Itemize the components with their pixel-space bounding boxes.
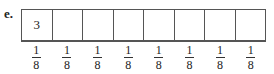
strip-cell[interactable] [114, 10, 145, 40]
fraction: 18 [174, 44, 205, 71]
fraction: 18 [113, 44, 144, 71]
denominator: 8 [186, 59, 192, 71]
problem-label: e. [4, 6, 13, 22]
numerator: 1 [217, 44, 223, 56]
fraction: 18 [82, 44, 113, 71]
numerator: 1 [33, 44, 39, 56]
denominator: 8 [156, 59, 162, 71]
strip-cell[interactable] [144, 10, 175, 40]
numerator: 1 [156, 44, 162, 56]
strip-cell[interactable] [175, 10, 206, 40]
denominator: 8 [125, 59, 131, 71]
fraction-labels: 18 18 18 18 18 18 18 18 [21, 44, 266, 71]
numerator: 1 [186, 44, 192, 56]
numerator: 1 [125, 44, 131, 56]
fraction: 18 [52, 44, 83, 71]
denominator: 8 [95, 59, 101, 71]
strip-cell[interactable] [83, 10, 114, 40]
denominator: 8 [33, 59, 39, 71]
fraction: 18 [144, 44, 175, 71]
numerator: 1 [64, 44, 70, 56]
strip-cell[interactable]: 3 [22, 10, 53, 40]
strip-cell[interactable] [205, 10, 236, 40]
numerator: 1 [248, 44, 254, 56]
fraction: 18 [205, 44, 236, 71]
denominator: 8 [248, 59, 254, 71]
fraction: 18 [235, 44, 266, 71]
numerator: 1 [95, 44, 101, 56]
strip-cell[interactable] [53, 10, 84, 40]
denominator: 8 [64, 59, 70, 71]
denominator: 8 [217, 59, 223, 71]
fraction: 18 [21, 44, 52, 71]
strip-cell[interactable] [236, 10, 266, 40]
fraction-strip: 3 [21, 9, 266, 42]
